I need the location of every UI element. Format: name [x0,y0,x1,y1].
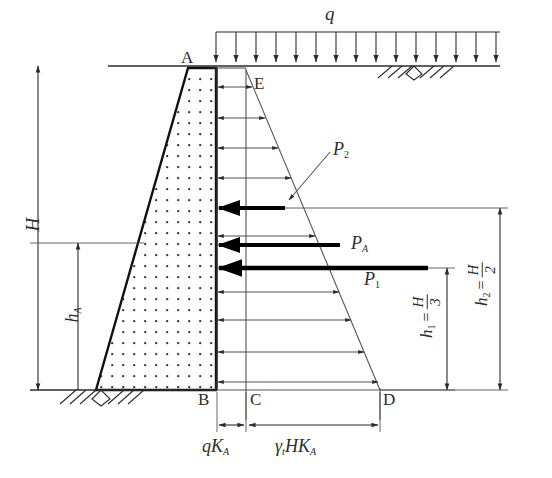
retaining-wall-body [96,68,216,390]
bottom-dimension-lines [217,392,380,432]
ground-hatch-base-icon [60,390,144,406]
dimension-h2-numerator: H [466,263,482,278]
force-P2-sub: 2 [344,149,349,160]
dimension-h1-sub: 1 [426,324,437,329]
label-force-P2: P2 [333,140,349,160]
wall-section [96,68,216,390]
dimension-h1-fraction: H3 [411,295,444,310]
dimension-h2-denominator: 2 [482,263,499,278]
dimension-h1-denominator: 3 [427,295,444,310]
dimension-hA-sub: A [72,307,83,313]
leader-line-P2 [289,152,330,200]
ground-hatch-top-icon [378,66,454,80]
label-dimension-hA: hA [63,293,83,337]
pressure-K-sub: A [310,446,316,457]
label-force-PA: PA [351,234,368,254]
force-P1-sub: 1 [375,279,380,290]
pressure-qKa-sub: A [223,446,229,457]
surcharge-arrows [216,32,496,62]
label-point-E: E [254,75,264,92]
dimension-h1-base: h [417,329,436,338]
dimension-h2-fraction: H2 [466,263,499,278]
label-point-A: A [181,49,193,66]
pressure-H: H [285,436,298,456]
dimension-h2-base: h [472,297,491,306]
force-PA-base: P [351,233,362,253]
dimension-h2-equals: = [473,277,490,292]
dimension-H-text: H [22,218,43,232]
dimension-h1-equals: = [418,309,435,324]
pressure-triangle-hypotenuse [246,70,380,390]
pressure-qKa-K: K [211,436,223,456]
pressure-K: K [298,436,310,456]
label-point-C: C [250,391,261,408]
force-PA-sub: A [362,243,368,254]
label-pressure-gammaHKa: γtHKA [275,437,316,457]
label-surcharge-q: q [325,4,335,23]
force-P1-base: P [364,269,375,289]
pressure-arrow-rows [218,87,428,382]
dimension-h1-numerator: H [411,295,427,310]
label-dimension-h2: h2=H2 [466,236,499,332]
label-dimension-H: H [23,205,42,245]
dimension-hA-base: h [62,313,82,322]
label-point-D: D [383,391,395,408]
label-point-B: B [198,391,209,408]
label-pressure-qKa: qKA [202,437,229,457]
force-P2-base: P [333,139,344,159]
label-dimension-h1: h1=H3 [411,268,444,364]
dimension-h2-sub: 2 [481,292,492,297]
surcharge-load-group [216,32,500,62]
figure-canvas: q A E B C D P2 PA P1 H hA h1=H3 h2=H2 qK… [0,0,552,478]
label-force-P1: P1 [364,270,380,290]
pressure-qKa-q: q [202,436,211,456]
